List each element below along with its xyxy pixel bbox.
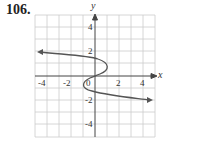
y-tick: -2	[85, 95, 93, 105]
y-tick: 4	[88, 22, 93, 32]
y-tick: -4	[85, 119, 93, 129]
x-axis-label: x	[158, 69, 162, 80]
x-tick: 4	[140, 78, 145, 88]
x-tick: -4	[38, 78, 46, 88]
graph	[0, 0, 199, 145]
x-tick: 2	[116, 78, 121, 88]
y-tick: 2	[88, 46, 93, 56]
y-axis-label: y	[91, 0, 95, 11]
x-tick: 0	[86, 78, 91, 88]
x-tick: -2	[63, 78, 71, 88]
